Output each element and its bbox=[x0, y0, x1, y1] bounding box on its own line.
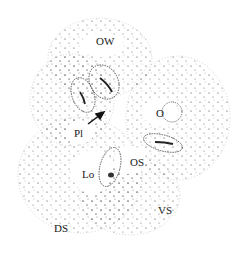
label-lo: Lo bbox=[82, 169, 94, 180]
micrograph-figure: OW O Pl OS Lo VS DS bbox=[0, 0, 243, 254]
label-os: OS bbox=[130, 157, 144, 168]
label-o: O bbox=[156, 108, 164, 119]
label-pl: Pl bbox=[74, 128, 83, 139]
label-ds: DS bbox=[54, 223, 68, 234]
label-vs: VS bbox=[158, 205, 172, 216]
label-ow: OW bbox=[96, 36, 114, 47]
tissue-lobes bbox=[18, 18, 230, 235]
stippled-section-illustration bbox=[0, 0, 243, 254]
